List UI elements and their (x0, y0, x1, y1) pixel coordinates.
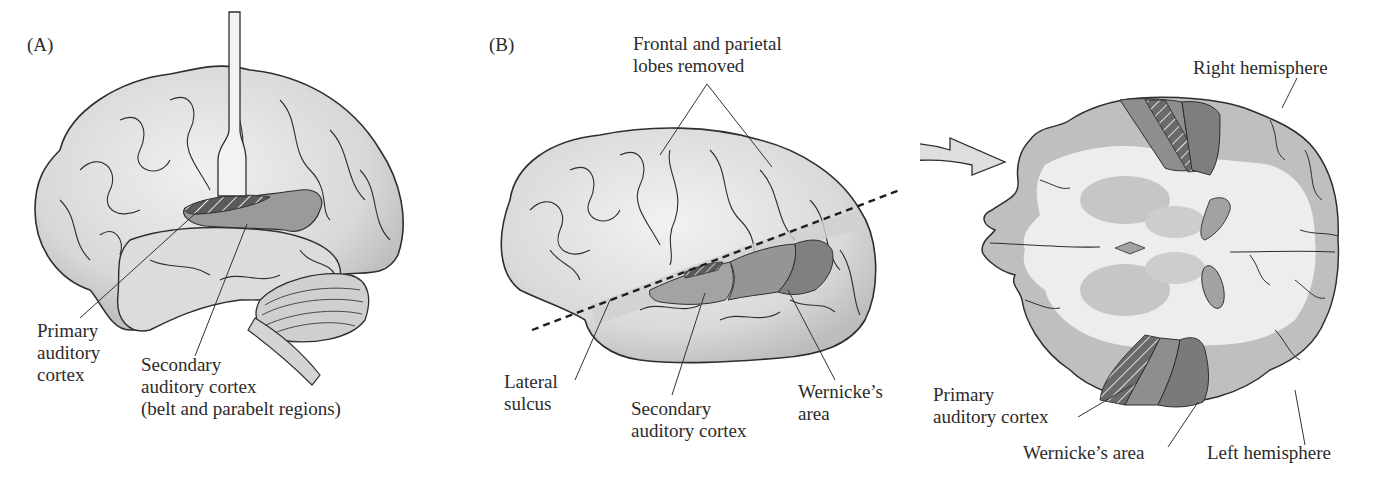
label-secondary-auditory-cortex-a: Secondary auditory cortex (belt and para… (141, 354, 341, 420)
panel-horizontal-section: Right hemisphere Primary auditory cortex… (920, 0, 1382, 484)
label-wernickes-area-b: Wernicke’s area (798, 381, 883, 425)
label-right-hemisphere: Right hemisphere (1193, 57, 1328, 79)
label-frontal-parietal-removed: Frontal and parietal lobes removed (633, 33, 782, 77)
panel-a: (A) (0, 0, 460, 484)
label-primary-auditory-cortex-a: Primary auditory cortex (37, 320, 100, 386)
label-left-hemisphere: Left hemisphere (1207, 442, 1331, 464)
label-secondary-auditory-cortex-b: Secondary auditory cortex (631, 398, 747, 442)
thalamus-upper (1145, 206, 1205, 238)
thalamus-lower (1145, 252, 1205, 284)
label-wernickes-area-section: Wernicke’s area (1023, 442, 1144, 464)
label-primary-auditory-cortex-section: Primary auditory cortex (933, 384, 1049, 428)
label-lateral-sulcus: Lateral sulcus (504, 371, 558, 415)
transition-arrow (920, 138, 1005, 182)
panel-b: (B) (460, 0, 920, 484)
